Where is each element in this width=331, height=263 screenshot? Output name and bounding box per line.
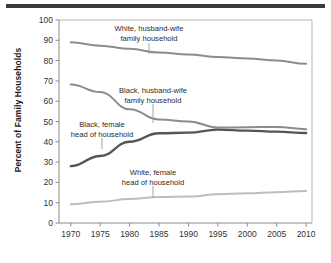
annotation-label-line2: family household — [121, 34, 178, 43]
y-axis-tick-label: 40 — [44, 137, 54, 147]
annotation-label-line1: White, female — [130, 168, 176, 177]
y-axis-tick-label: 60 — [44, 96, 54, 106]
x-axis-tick-label: 1985 — [150, 229, 169, 239]
x-axis-tick-label: 2010 — [297, 229, 316, 239]
y-axis-tick-label: 10 — [44, 198, 54, 208]
chart-figure: Percent of Family Households 01020304050… — [0, 10, 331, 255]
annotation-label-line2: head of household — [122, 178, 185, 187]
x-axis-tick-label: 1970 — [61, 229, 80, 239]
x-axis-tick-label: 1975 — [91, 229, 110, 239]
x-axis-tick-label: 2000 — [238, 229, 257, 239]
top-divider-rule — [6, 4, 325, 8]
annotation-label-line1: Black, husband-wife — [119, 86, 187, 95]
x-axis-tick-label: 1995 — [208, 229, 227, 239]
series-line-0 — [71, 42, 306, 64]
y-axis-tick-label: 70 — [44, 76, 54, 86]
y-axis-tick-label: 100 — [39, 15, 53, 25]
annotation-label-line1: Black, female — [79, 120, 125, 129]
annotation-label-line2: family household — [125, 96, 182, 105]
annotation-black-female: Black, femalehead of household — [71, 120, 134, 149]
y-axis-tick-label: 0 — [48, 218, 53, 228]
y-axis-tick-label: 50 — [44, 117, 54, 127]
annotation-black-husband-wife: Black, husband-wifefamily household — [119, 86, 187, 123]
annotation-label-line1: White, husband-wife — [115, 24, 184, 33]
annotation-label-line2: head of household — [71, 130, 134, 139]
annotation-white-female: White, femalehead of household — [122, 168, 185, 198]
series-line-3 — [71, 191, 306, 204]
y-axis-tick-label: 80 — [44, 56, 54, 66]
x-axis-tick-label: 1980 — [120, 229, 139, 239]
y-axis-tick-label: 30 — [44, 157, 54, 167]
x-axis-tick-label: 2005 — [267, 229, 286, 239]
line-chart-svg: 0102030405060708090100197019751980198519… — [0, 10, 331, 255]
y-axis-tick-label: 90 — [44, 35, 54, 45]
x-axis-tick-label: 1990 — [179, 229, 198, 239]
y-axis-tick-label: 20 — [44, 177, 54, 187]
